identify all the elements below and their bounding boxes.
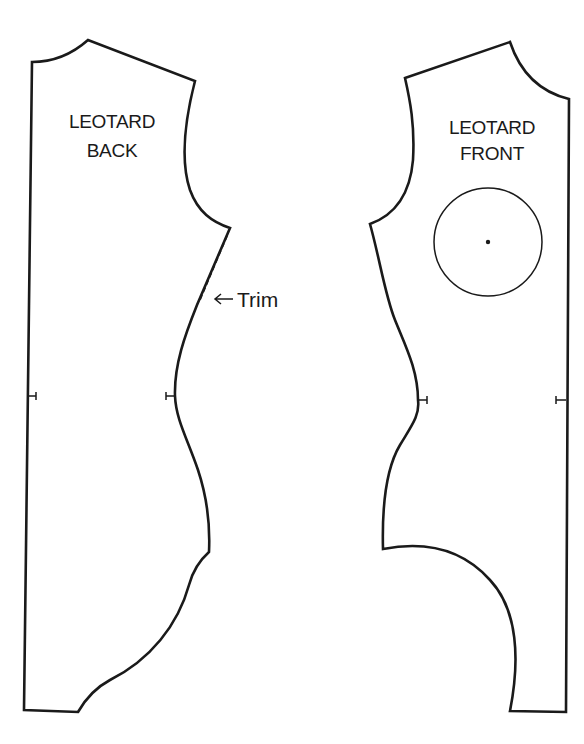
pattern-canvas: LEOTARD BACK Trim LEOTARD FRONT: [0, 0, 584, 744]
back-notch-left: [29, 392, 36, 400]
circle-center-dot: [486, 240, 490, 244]
front-label-line1: LEOTARD: [449, 117, 535, 138]
trim-line: [200, 236, 227, 300]
leotard-front-piece: LEOTARD FRONT: [370, 42, 569, 712]
trim-label: Trim: [237, 288, 278, 311]
leotard-back-piece: LEOTARD BACK Trim: [24, 40, 278, 712]
trim-annotation: Trim: [215, 288, 278, 311]
front-notch-right: [556, 396, 566, 404]
front-label-line2: FRONT: [460, 143, 525, 164]
back-label-line2: BACK: [87, 140, 138, 161]
left-arrow-icon: [215, 294, 233, 304]
back-label-line1: LEOTARD: [69, 111, 155, 132]
